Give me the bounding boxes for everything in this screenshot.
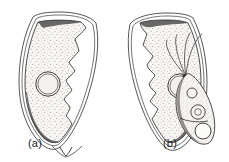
posterior-vacuole <box>195 123 211 139</box>
polar-capsule-left <box>36 72 60 96</box>
apical-organelle <box>187 88 197 98</box>
panel-label-b: (b) <box>163 137 177 149</box>
nucleus <box>191 105 205 119</box>
figure-panel: (a) (b) <box>0 0 229 162</box>
panel-label-a: (a) <box>28 137 42 149</box>
figure-illustration: (a) (b) <box>0 0 229 162</box>
